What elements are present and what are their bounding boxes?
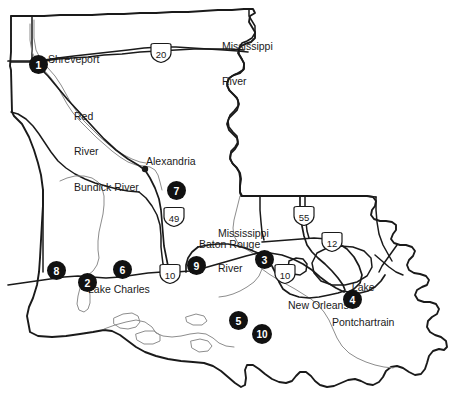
water-label-pontchartrain-line2: Pontchartrain: [332, 317, 394, 329]
location-marker-9[interactable]: 9: [187, 256, 206, 275]
water-label-red-river: Red River: [74, 88, 99, 180]
highway-shield-55[interactable]: 55: [291, 205, 317, 227]
water-label-red-river-line2: River: [74, 146, 99, 158]
water-label-mississippi-north-line2: River: [222, 76, 273, 88]
water-label-red-river-line1: Red: [74, 111, 99, 123]
location-marker-8[interactable]: 8: [47, 261, 66, 280]
highway-shield-49[interactable]: 49: [161, 206, 187, 228]
highway-shield-10-west[interactable]: 10: [157, 263, 183, 285]
water-label-mississippi-north-line1: Mississippi: [222, 41, 273, 53]
location-marker-6[interactable]: 6: [113, 260, 132, 279]
city-label-lake-charles: Lake Charles: [88, 284, 150, 296]
location-marker-5[interactable]: 5: [229, 311, 248, 330]
highway-shield-55-number: 55: [299, 212, 310, 223]
water-label-mississippi-south-line1: Mississippi: [218, 228, 269, 240]
location-marker-4[interactable]: 4: [343, 290, 362, 309]
highway-shield-12[interactable]: 12: [319, 231, 345, 253]
city-label-shreveport: Shreveport: [48, 54, 99, 66]
highway-shield-10-east[interactable]: 10: [272, 263, 298, 285]
highway-shield-12-number: 12: [327, 238, 338, 249]
water-label-bundick-river: Bundick River: [74, 182, 139, 194]
highway-shield-10-east-number: 10: [280, 270, 291, 281]
highway-shield-49-number: 49: [169, 213, 180, 224]
highway-shield-10-west-number: 10: [165, 270, 176, 281]
water-label-mississippi-river-north: Mississippi River: [222, 18, 273, 110]
city-label-alexandria: Alexandria: [146, 156, 196, 168]
highway-shield-20[interactable]: 20: [148, 42, 174, 64]
location-marker-10[interactable]: 10: [252, 324, 272, 344]
location-marker-1[interactable]: 1: [29, 55, 48, 74]
highway-shield-20-number: 20: [156, 49, 167, 60]
location-marker-2[interactable]: 2: [78, 273, 97, 292]
water-label-pontchartrain-line1: Lake: [332, 282, 394, 294]
location-marker-7[interactable]: 7: [167, 181, 186, 200]
location-marker-3[interactable]: 3: [255, 250, 274, 269]
water-label-lake-pontchartrain: Lake Pontchartrain: [332, 259, 394, 351]
map-canvas: Shreveport Alexandria Baton Rouge Lake C…: [0, 0, 457, 400]
